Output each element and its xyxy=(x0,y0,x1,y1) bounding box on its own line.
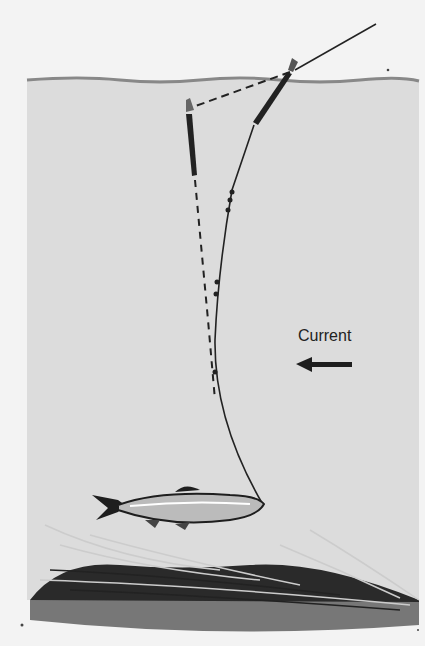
water-body xyxy=(27,80,419,600)
fishing-illustration xyxy=(0,0,425,646)
fishing-line-above xyxy=(295,24,376,70)
current-label: Current xyxy=(298,327,351,345)
